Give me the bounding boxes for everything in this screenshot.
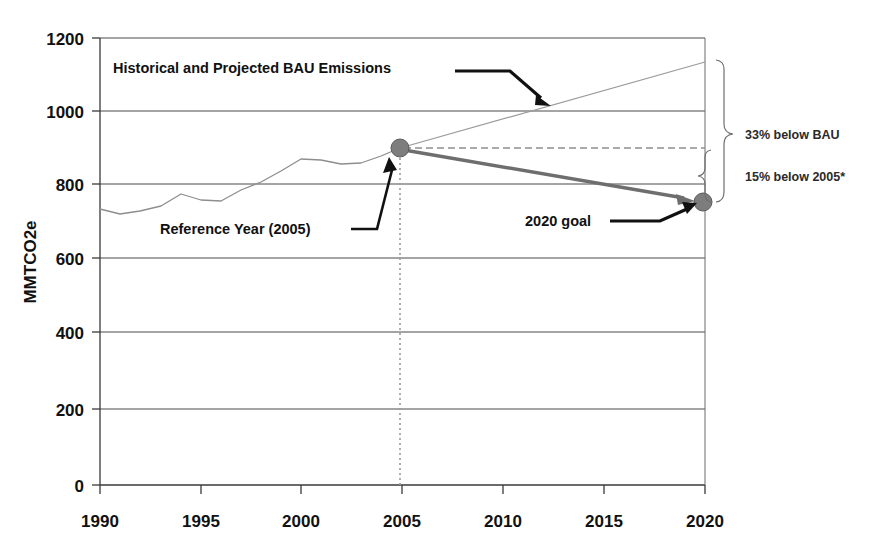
reference-year-leader	[351, 157, 397, 229]
x-tick-label-2005: 2005	[383, 512, 421, 531]
historical-bau-line	[100, 148, 400, 214]
brace-33-below-bau-label: 33% below BAU	[745, 128, 839, 142]
x-tickmarks	[100, 485, 705, 494]
plot-frame	[100, 38, 705, 485]
y-tick-label-1000: 1000	[46, 103, 84, 122]
x-tick-label-2015: 2015	[585, 512, 623, 531]
goal-leader-arrowhead	[682, 202, 697, 214]
goal-annotation-leader	[610, 202, 697, 221]
bau-annotation-leader	[455, 71, 551, 106]
brace-15-below-2005-label: 15% below 2005*	[745, 170, 845, 184]
y-tick-label-200: 200	[56, 401, 84, 420]
y-tick-label-400: 400	[56, 324, 84, 343]
reference-year-leader-arrowhead	[383, 157, 397, 173]
y-axis-title: MMTCO2e	[21, 220, 40, 303]
x-tick-label-2010: 2010	[484, 512, 522, 531]
x-tick-label-1995: 1995	[182, 512, 220, 531]
y-tick-label-600: 600	[56, 250, 84, 269]
bau-projection-line	[400, 62, 705, 148]
brace-15-below-2005: 15% below 2005*	[698, 150, 845, 202]
y-tick-labels: 1200 1000 800 600 400 200 0	[46, 30, 84, 496]
x-tick-label-2020: 2020	[686, 512, 724, 531]
y-tick-label-0: 0	[75, 477, 84, 496]
goal-trajectory-arrow	[404, 150, 695, 205]
y-tickmarks	[92, 38, 100, 485]
bau-annotation-label: Historical and Projected BAU Emissions	[113, 60, 391, 76]
reference-year-annotation-label: Reference Year (2005)	[160, 221, 311, 237]
y-tick-label-1200: 1200	[46, 30, 84, 49]
bau-leader-arrowhead	[535, 95, 551, 106]
y-tick-label-800: 800	[56, 176, 84, 195]
reference-year-marker	[391, 139, 409, 157]
x-tick-label-1990: 1990	[81, 512, 119, 531]
x-tick-labels: 1990 1995 2000 2005 2010 2015 2020	[81, 512, 724, 531]
x-tick-label-2000: 2000	[282, 512, 320, 531]
goal-annotation-label: 2020 goal	[525, 213, 591, 229]
emissions-chart: 1200 1000 800 600 400 200 0 1990 1995 20…	[0, 0, 870, 557]
chart-figure: 1200 1000 800 600 400 200 0 1990 1995 20…	[0, 0, 870, 557]
